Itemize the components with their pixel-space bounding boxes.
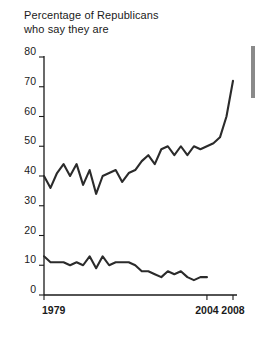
lower-series-line — [44, 256, 207, 280]
y-tick-label-20: 20 — [24, 224, 36, 236]
y-tick-label-80: 80 — [24, 45, 36, 57]
y-tick-label-60: 60 — [24, 105, 36, 117]
y-tick-label-0: 0 — [30, 283, 36, 295]
x-axis-tick-labels: 197920042008 — [42, 304, 245, 316]
y-axis-tick-labels: 01020304050607080 — [24, 45, 36, 295]
y-tick-label-70: 70 — [24, 75, 36, 87]
chart-figure: Percentage of Republicans who say they a… — [0, 0, 260, 343]
line-chart-plot: 01020304050607080 197920042008 — [0, 0, 260, 343]
page-edge-marker — [251, 46, 255, 98]
x-tick-label-2004: 2004 — [195, 304, 219, 316]
x-axis-tick-marks — [44, 295, 233, 300]
y-tick-label-50: 50 — [24, 134, 36, 146]
upper-series-line — [44, 81, 233, 194]
x-tick-label-1979: 1979 — [42, 304, 66, 316]
x-tick-label-2008: 2008 — [221, 304, 245, 316]
y-tick-label-40: 40 — [24, 164, 36, 176]
y-tick-label-10: 10 — [24, 253, 36, 265]
y-tick-label-30: 30 — [24, 194, 36, 206]
